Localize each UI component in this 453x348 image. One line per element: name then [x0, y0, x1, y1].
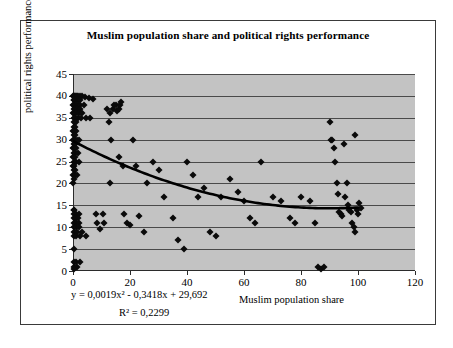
data-point [340, 140, 347, 147]
y-axis-label: political rights performance [22, 0, 33, 113]
data-point [342, 193, 349, 200]
gridline [73, 118, 415, 119]
data-point [240, 197, 247, 204]
data-point [169, 215, 176, 222]
x-tick-mark [130, 271, 131, 275]
data-point [189, 171, 196, 178]
data-point [144, 180, 151, 187]
trendline-equation-text: y = 0,0019x² - 0,3418x + 29,692 [71, 289, 208, 300]
data-point [132, 162, 139, 169]
data-point [235, 189, 242, 196]
data-point [175, 237, 182, 244]
data-point [161, 193, 168, 200]
data-point [258, 158, 265, 165]
data-point [149, 158, 156, 165]
data-point [252, 219, 259, 226]
gridline [73, 183, 415, 184]
data-point [135, 213, 142, 220]
data-point [332, 158, 339, 165]
data-point [329, 136, 336, 143]
data-point [306, 197, 313, 204]
data-point [155, 167, 162, 174]
gridline [73, 249, 415, 250]
data-point [82, 232, 89, 239]
x-tick-mark [187, 271, 188, 275]
data-point [70, 246, 77, 253]
y-tick-label: 30 [47, 134, 67, 145]
plot-area [73, 74, 415, 271]
y-tick-label: 15 [47, 200, 67, 211]
data-point [99, 211, 106, 218]
data-point [201, 184, 208, 191]
data-point [101, 219, 108, 226]
data-point [87, 114, 94, 121]
data-point [105, 119, 112, 126]
data-point [292, 219, 299, 226]
gridline [73, 96, 415, 97]
y-tick-label: 45 [47, 69, 67, 80]
data-point [339, 213, 346, 220]
data-point [312, 219, 319, 226]
data-point [121, 211, 128, 218]
x-tick-mark [301, 271, 302, 275]
data-point [326, 119, 333, 126]
x-tick-label: 60 [229, 277, 259, 288]
data-point [352, 228, 359, 235]
data-point [269, 193, 276, 200]
gridline [73, 140, 415, 141]
data-point [206, 228, 213, 235]
y-tick-label: 5 [47, 244, 67, 255]
trendline-r2: R² = 0,2299 [119, 307, 169, 318]
y-tick-label: 10 [47, 222, 67, 233]
data-point [89, 96, 96, 103]
data-point [343, 180, 350, 187]
y-tick-label: 40 [47, 90, 67, 101]
chart-title: Muslim population share and political ri… [21, 29, 435, 41]
data-point [352, 132, 359, 139]
x-tick-mark [244, 271, 245, 275]
chart-figure: Muslim population share and political ri… [20, 20, 436, 325]
data-point [278, 197, 285, 204]
x-tick-label: 100 [343, 277, 373, 288]
data-point [195, 193, 202, 200]
x-tick-label: 20 [115, 277, 145, 288]
trendline-r2-text: R² = 0,2299 [119, 307, 169, 318]
x-tick-mark [415, 271, 416, 275]
gridline [73, 227, 415, 228]
data-point [183, 158, 190, 165]
y-tick-label: 20 [47, 178, 67, 189]
y-tick-label: 0 [47, 266, 67, 277]
data-point [92, 211, 99, 218]
data-point [70, 180, 77, 187]
data-point [226, 176, 233, 183]
x-axis-line [73, 270, 415, 272]
data-point [297, 193, 304, 200]
x-tick-label: 0 [58, 277, 88, 288]
data-point [108, 136, 115, 143]
data-point [107, 180, 114, 187]
data-point [212, 232, 219, 239]
gridline [73, 74, 415, 75]
data-point [218, 193, 225, 200]
data-point [141, 228, 148, 235]
x-tick-label: 120 [400, 277, 430, 288]
data-point [115, 154, 122, 161]
x-axis-label: Muslim population share [239, 294, 344, 305]
data-point [333, 180, 340, 187]
trendline-path [73, 141, 358, 208]
data-point [129, 136, 136, 143]
x-tick-label: 40 [172, 277, 202, 288]
data-point [330, 145, 337, 152]
gridline [73, 162, 415, 163]
y-tick-label: 35 [47, 112, 67, 123]
x-tick-label: 80 [286, 277, 316, 288]
data-point [181, 246, 188, 253]
y-tick-label: 25 [47, 156, 67, 167]
x-tick-mark [358, 271, 359, 275]
data-point [119, 162, 126, 169]
trendline-equation: y = 0,0019x² - 0,3418x + 29,692 [71, 289, 208, 300]
trendline [73, 74, 415, 271]
